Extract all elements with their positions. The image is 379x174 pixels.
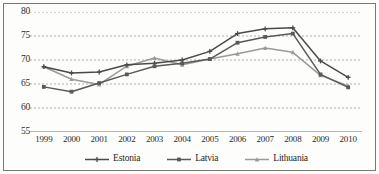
legend-marker-lithuania: [244, 155, 270, 164]
chart-legend: EstoniaLatviaLithuania: [30, 151, 362, 167]
chart-container: 807570656055 199920002001200220032004200…: [0, 0, 379, 174]
x-tick-label: 2004: [174, 135, 191, 144]
data-point-marker: [346, 85, 350, 89]
x-tick-label: 2000: [63, 135, 80, 144]
y-tick-label: 75: [21, 31, 30, 41]
x-tick-label: 2005: [201, 135, 218, 144]
legend-marker-estonia: [84, 155, 110, 164]
x-tick-label: 2008: [284, 135, 301, 144]
series-line-estonia: [44, 28, 348, 77]
data-point-marker: [95, 157, 100, 162]
legend-label: Estonia: [113, 154, 140, 164]
y-tick-label: 60: [21, 103, 30, 113]
x-tick-label: 2010: [340, 135, 357, 144]
y-tick-label: 80: [21, 7, 30, 17]
data-point-marker: [208, 57, 212, 61]
legend-label: Lithuania: [273, 154, 308, 164]
data-point-marker: [97, 81, 101, 85]
legend-item-estonia[interactable]: Estonia: [84, 154, 140, 164]
data-point-marker: [125, 73, 129, 77]
data-point-marker: [236, 41, 240, 45]
legend-marker-latvia: [166, 155, 192, 164]
data-point-marker: [69, 71, 74, 76]
data-point-marker: [263, 26, 268, 31]
data-point-marker: [42, 85, 46, 89]
legend-label: Latvia: [195, 154, 218, 164]
legend-item-lithuania[interactable]: Lithuania: [244, 154, 308, 164]
data-point-marker: [177, 157, 181, 161]
x-tick-label: 2002: [118, 135, 135, 144]
x-tick-label: 1999: [35, 135, 52, 144]
plot-area: [30, 12, 362, 132]
data-point-marker: [180, 61, 184, 65]
chart-svg: [30, 12, 362, 132]
legend-item-latvia[interactable]: Latvia: [166, 154, 218, 164]
y-tick-label: 55: [21, 127, 30, 137]
x-tick-label: 2001: [91, 135, 108, 144]
data-point-marker: [263, 35, 267, 39]
data-point-marker: [97, 70, 102, 75]
y-axis-labels: 807570656055: [6, 12, 30, 132]
series-line-lithuania: [44, 48, 348, 86]
y-tick-label: 70: [21, 55, 30, 65]
x-tick-label: 2007: [257, 135, 274, 144]
data-point-marker: [291, 32, 295, 36]
x-axis-labels: 1999200020012002200320042005200620072008…: [30, 135, 362, 149]
y-tick-label: 65: [21, 79, 30, 89]
data-point-marker: [70, 90, 74, 94]
data-point-marker: [153, 64, 157, 68]
x-tick-label: 2006: [229, 135, 246, 144]
data-point-marker: [319, 73, 323, 77]
x-tick-label: 2009: [312, 135, 329, 144]
x-tick-label: 2003: [146, 135, 163, 144]
